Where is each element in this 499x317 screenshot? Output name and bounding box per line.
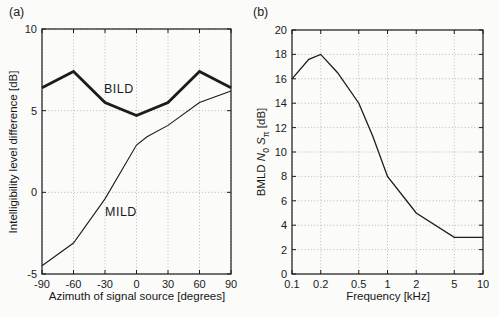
ylabel-part: 0 — [261, 148, 271, 153]
y-tick-label: 12 — [275, 122, 287, 134]
curve-label-mild: MILD — [105, 205, 137, 219]
panel-label-a: (a) — [9, 5, 24, 19]
x-tick-label: 30 — [162, 278, 174, 290]
x-tick-label: 5 — [451, 278, 457, 290]
ylabel-part: π — [261, 131, 271, 137]
y-tick-label: -5 — [27, 268, 37, 280]
series-line-mild — [42, 91, 231, 266]
curve-label-bild: BILD — [104, 82, 134, 96]
y-tick-label: 20 — [275, 24, 287, 36]
y-tick-label: 0 — [31, 186, 37, 198]
x-tick-label: 10 — [477, 278, 489, 290]
x-tick-label: 90 — [225, 278, 237, 290]
y-tick-label: 6 — [281, 195, 287, 207]
y-tick-label: 10 — [25, 23, 37, 35]
x-tick-label: 60 — [193, 278, 205, 290]
y-tick-label: 8 — [281, 170, 287, 182]
x-tick-label: 2 — [413, 278, 419, 290]
x-tick-label: 0.5 — [351, 278, 366, 290]
ylabel-part — [255, 145, 267, 148]
y-tick-label: 0 — [281, 268, 287, 280]
xlabel-azimuth: Azimuth of signal source [degrees] — [49, 290, 225, 302]
y-tick-label: 10 — [275, 146, 287, 158]
y-tick-label: 4 — [281, 219, 287, 231]
panel-label-b: (b) — [253, 5, 268, 19]
plot-b: 0.10.20.51251002468101214161820 — [275, 24, 489, 290]
x-tick-label: 0.2 — [313, 278, 328, 290]
ylabel-part: [dB] — [255, 108, 267, 132]
x-tick-label: -30 — [97, 278, 113, 290]
x-tick-label: 0 — [133, 278, 139, 290]
y-tick-label: 14 — [275, 97, 287, 109]
ylabel-intelligibility: Intelligibility level difference [dB] — [7, 71, 19, 234]
ylabel-part: N — [255, 153, 267, 161]
figure: (a) (b) -90-60-300306090-50510BILDMILD0.… — [0, 0, 499, 317]
x-tick-label: 1 — [384, 278, 390, 290]
ylabel-part: S — [255, 137, 267, 145]
ylabel-bmld: BMLD N0 Sπ [dB] — [255, 108, 270, 197]
y-tick-label: 16 — [275, 73, 287, 85]
y-tick-label: 5 — [31, 105, 37, 117]
plots-svg: -90-60-300306090-50510BILDMILD0.10.20.51… — [0, 0, 499, 317]
y-tick-label: 18 — [275, 48, 287, 60]
ylabel-part: BMLD — [255, 161, 267, 196]
y-tick-label: 2 — [281, 244, 287, 256]
x-tick-label: -60 — [66, 278, 82, 290]
xlabel-frequency: Frequency [kHz] — [346, 290, 430, 302]
plot-a: -90-60-300306090-50510BILDMILD — [25, 23, 237, 290]
